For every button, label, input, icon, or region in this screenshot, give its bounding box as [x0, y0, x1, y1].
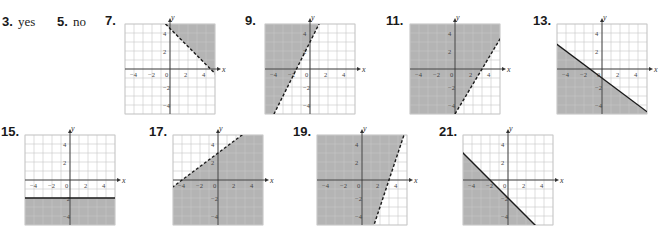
svg-text:0: 0: [65, 182, 68, 189]
svg-text:x: x: [361, 65, 366, 74]
svg-text:−2: −2: [303, 84, 310, 91]
inequality-graph: xy−4−202442−2−4: [123, 14, 227, 118]
exercise-number: 17.: [149, 124, 167, 139]
svg-text:−2: −2: [501, 195, 508, 202]
answer-3-text: yes: [18, 14, 35, 30]
svg-text:y: y: [218, 125, 223, 133]
svg-text:4: 4: [102, 182, 106, 189]
svg-text:2: 2: [376, 182, 379, 189]
exercise-number: 15.: [1, 124, 19, 139]
exercise-number: 19.: [293, 124, 311, 139]
svg-text:x: x: [221, 65, 226, 74]
svg-text:−4: −4: [270, 71, 278, 78]
inequality-graph: xy−4−202442−2−4: [315, 125, 419, 229]
svg-text:−2: −2: [433, 71, 440, 78]
svg-text:4: 4: [487, 71, 491, 78]
svg-text:−4: −4: [30, 182, 38, 189]
svg-text:0: 0: [165, 71, 168, 78]
svg-text:−4: −4: [595, 102, 603, 109]
inequality-graph: xy−4−202442−2−4: [555, 14, 659, 118]
svg-text:−4: −4: [211, 213, 219, 220]
svg-text:−2: −2: [148, 71, 155, 78]
svg-text:4: 4: [342, 71, 346, 78]
svg-text:2: 2: [448, 48, 451, 55]
svg-text:2: 2: [469, 71, 472, 78]
exercise-number: 7.: [105, 13, 116, 28]
svg-text:2: 2: [184, 71, 187, 78]
svg-text:y: y: [455, 14, 460, 22]
svg-text:4: 4: [394, 182, 398, 189]
svg-text:−4: −4: [562, 71, 570, 78]
svg-text:−4: −4: [415, 71, 423, 78]
svg-text:x: x: [506, 65, 511, 74]
svg-text:0: 0: [213, 182, 216, 189]
svg-text:y: y: [508, 125, 513, 133]
inequality-graph: xy−4−202442−2−4: [171, 125, 275, 229]
svg-text:0: 0: [357, 182, 360, 189]
svg-text:2: 2: [355, 159, 358, 166]
svg-text:2: 2: [595, 48, 598, 55]
svg-text:−2: −2: [580, 71, 587, 78]
svg-text:−4: −4: [163, 102, 171, 109]
svg-text:x: x: [413, 176, 418, 185]
svg-text:2: 2: [84, 182, 87, 189]
svg-text:2: 2: [616, 71, 619, 78]
answer-5-text: no: [73, 14, 86, 30]
answer-3-number: 3.: [2, 14, 13, 29]
svg-text:−2: −2: [211, 195, 218, 202]
svg-text:−2: −2: [355, 195, 362, 202]
svg-text:y: y: [70, 125, 75, 133]
svg-text:−4: −4: [355, 213, 363, 220]
svg-text:x: x: [269, 176, 274, 185]
svg-text:−4: −4: [130, 71, 138, 78]
svg-text:−2: −2: [448, 84, 455, 91]
svg-text:y: y: [602, 14, 607, 22]
svg-text:−4: −4: [468, 182, 476, 189]
svg-text:−2: −2: [486, 182, 493, 189]
exercise-number: 21.: [439, 124, 457, 139]
svg-text:−2: −2: [595, 84, 602, 91]
svg-text:x: x: [559, 176, 564, 185]
svg-text:y: y: [170, 14, 175, 22]
svg-text:−2: −2: [196, 182, 203, 189]
exercise-number: 11.: [386, 13, 403, 28]
svg-text:−2: −2: [288, 71, 295, 78]
inequality-graph: xy−4−202442−2−4: [461, 125, 565, 229]
svg-text:−4: −4: [322, 182, 330, 189]
svg-text:−4: −4: [63, 213, 71, 220]
svg-text:y: y: [362, 125, 367, 133]
svg-text:−4: −4: [303, 102, 311, 109]
svg-text:−2: −2: [340, 182, 347, 189]
exercise-number: 13.: [533, 13, 551, 28]
svg-text:−2: −2: [163, 84, 170, 91]
exercise-number: 9.: [245, 13, 256, 28]
answer-5-number: 5.: [57, 14, 68, 29]
svg-text:2: 2: [211, 159, 214, 166]
inequality-graph: xy−4−202442−2−4: [408, 14, 512, 118]
svg-text:2: 2: [501, 159, 504, 166]
svg-text:2: 2: [324, 71, 327, 78]
svg-text:2: 2: [163, 48, 166, 55]
svg-text:−4: −4: [501, 213, 509, 220]
svg-text:2: 2: [232, 182, 235, 189]
svg-text:4: 4: [202, 71, 206, 78]
svg-text:x: x: [653, 65, 658, 74]
svg-text:−4: −4: [448, 102, 456, 109]
svg-text:0: 0: [503, 182, 506, 189]
inequality-graph: xy−4−202442−2−4: [263, 14, 367, 118]
svg-text:−2: −2: [48, 182, 55, 189]
svg-text:4: 4: [540, 182, 544, 189]
svg-text:0: 0: [305, 71, 308, 78]
svg-text:2: 2: [63, 159, 66, 166]
svg-text:2: 2: [522, 182, 525, 189]
svg-text:y: y: [310, 14, 315, 22]
inequality-graph: xy−4−202442−2−4: [23, 125, 127, 229]
svg-text:−4: −4: [178, 182, 186, 189]
svg-text:x: x: [121, 176, 126, 185]
svg-text:0: 0: [450, 71, 453, 78]
svg-text:4: 4: [634, 71, 638, 78]
